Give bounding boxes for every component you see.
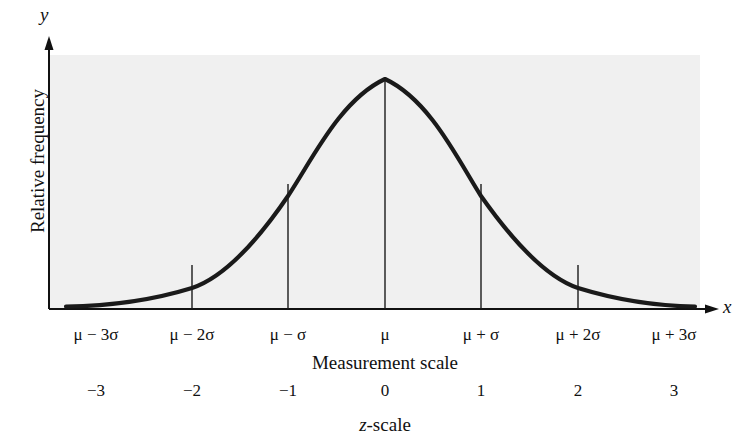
tick-label-mu: μ [380,325,389,345]
figure-root: y x Relative frequency μ − 3σ μ − 2σ μ −… [0,0,755,448]
tick-label-mu-plus-2sigma: μ + 2σ [556,325,601,345]
x-axis-letter: x [723,296,731,318]
ordinate-lines [192,79,578,309]
tick-label-mu-minus-2sigma: μ − 2σ [170,325,215,345]
z-scale-caption-rest: -scale [367,414,411,435]
tick-label-mu-minus-3sigma: μ − 3σ [74,325,119,345]
y-axis-label: Relative frequency [27,51,49,271]
normal-distribution-curve [66,79,695,307]
tick-label-mu-plus-3sigma: μ + 3σ [652,325,697,345]
z-tick-label-minus-1: −1 [279,381,297,401]
normal-curve-chart [0,0,755,448]
z-tick-label-plus-2: 2 [574,381,583,401]
z-tick-label-zero: 0 [381,381,390,401]
tick-label-mu-plus-sigma: μ + σ [463,325,499,345]
x-axis [49,305,719,314]
z-tick-label-minus-2: −2 [183,381,201,401]
tick-label-mu-minus-sigma: μ − σ [270,325,306,345]
z-scale-caption: z-scale [359,414,411,436]
y-axis-letter: y [40,4,48,26]
z-tick-label-plus-1: 1 [477,381,486,401]
measurement-scale-caption: Measurement scale [312,352,458,374]
z-tick-label-minus-3: −3 [87,381,105,401]
z-tick-label-plus-3: 3 [670,381,679,401]
